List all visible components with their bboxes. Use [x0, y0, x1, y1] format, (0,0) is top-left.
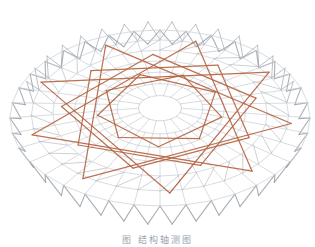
radial-annular-grid	[10, 30, 310, 206]
star-pattern-primary-beams	[32, 41, 291, 193]
figure-caption: 图 结构轴测图	[0, 233, 315, 247]
